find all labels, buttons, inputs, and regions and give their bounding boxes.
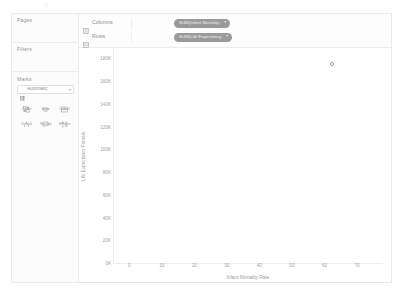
marks-button-label-label: Label <box>59 107 69 111</box>
x-axis-tick-label: 40 <box>257 264 262 269</box>
x-axis-tick-label: 70 <box>354 264 359 269</box>
worksheet-main: Columns SUM(Infant Mortality.. ▾ <box>79 14 391 282</box>
rows-icon <box>83 34 89 40</box>
pill-rows-measure[interactable]: SUM(Life Expectancy.. ▾ <box>174 33 232 42</box>
rows-shelf[interactable]: Rows SUM(Life Expectancy.. ▾ <box>83 31 387 43</box>
columns-shelf-label: Columns <box>92 20 128 25</box>
filters-card-title: Filters <box>17 47 74 52</box>
pill-columns-measure[interactable]: SUM(Infant Mortality.. ▾ <box>174 19 230 28</box>
data-point-mark[interactable] <box>330 62 334 66</box>
y-axis-title-wrap: Life Expectancy Female <box>79 48 91 264</box>
filters-card[interactable]: Filters <box>12 43 78 72</box>
top-left-artifact: ○ <box>44 1 48 8</box>
marks-button-tooltip-label: Tooltip <box>39 122 51 126</box>
columns-shelf-tray[interactable]: SUM(Infant Mortality.. ▾ <box>131 18 387 29</box>
marks-button-shape-label: Shape <box>58 122 70 126</box>
plot-canvas[interactable] <box>113 48 383 264</box>
marks-button-color[interactable]: Color <box>17 99 36 111</box>
marks-card-title: Marks <box>17 77 74 82</box>
x-axis-tick-label: 50 <box>289 264 294 269</box>
chevron-down-icon: ▾ <box>69 88 71 92</box>
marks-buttons-grid: Color Size <box>17 99 74 126</box>
columns-icon <box>83 20 89 26</box>
marks-button-size[interactable]: Size <box>36 99 55 111</box>
x-axis-tick-label: 20 <box>192 264 197 269</box>
x-axis-tick-label: 0 <box>128 264 131 269</box>
detail-icon <box>23 114 30 121</box>
x-axis-title: Infant Mortality Rate <box>113 276 383 281</box>
marks-type-icon <box>20 87 25 92</box>
columns-shelf[interactable]: Columns SUM(Infant Mortality.. ▾ <box>83 17 387 29</box>
marks-button-label[interactable]: Label <box>55 99 74 111</box>
pages-card-title: Pages <box>17 18 74 23</box>
label-icon <box>61 99 68 106</box>
y-axis-tick-label: 140K <box>100 103 111 108</box>
pages-card[interactable]: Pages <box>12 14 78 43</box>
worksheet-window: Pages Filters Marks <box>11 13 392 283</box>
y-axis-tick-label: 100K <box>100 148 111 153</box>
shelf-container: Columns SUM(Infant Mortality.. ▾ <box>79 14 391 48</box>
marks-button-tooltip[interactable]: Tooltip <box>36 114 55 126</box>
size-icon <box>42 99 49 106</box>
marks-button-detail-label: Detail <box>21 122 32 126</box>
y-axis-tick-label: 160K <box>100 80 111 85</box>
rows-shelf-label: Rows <box>92 34 128 39</box>
y-axis-tick-label: 80K <box>103 171 111 176</box>
y-axis-tick-label: 180K <box>100 57 111 62</box>
marks-button-color-label: Color <box>21 107 31 111</box>
screenshot-root: ○ · Pages Filters Marks <box>0 0 405 293</box>
y-axis-ticks: 0K20K40K60K80K100K120K140K160K180K <box>91 48 113 264</box>
marks-type-dropdown[interactable]: Automatic ▾ <box>17 85 74 94</box>
y-axis-tick-label: 40K <box>103 216 111 221</box>
x-axis-ticks: 010203040506070 <box>113 264 383 272</box>
shape-icon <box>61 114 68 121</box>
x-axis-tick-label: 30 <box>224 264 229 269</box>
x-axis-tick-label: 60 <box>322 264 327 269</box>
marks-type-value: Automatic <box>27 87 67 92</box>
pill-columns-text: SUM(Infant Mortality.. <box>179 21 221 25</box>
chart-area[interactable]: Life Expectancy Female 0K20K40K60K80K100… <box>79 48 391 282</box>
y-axis-tick-label: 60K <box>103 193 111 198</box>
worksheet-sidebar: Pages Filters Marks <box>12 14 79 282</box>
marks-button-size-label: Size <box>41 107 49 111</box>
marks-button-shape[interactable]: Shape <box>55 114 74 126</box>
x-axis-tick-label: 10 <box>159 264 164 269</box>
tooltip-icon <box>42 114 49 121</box>
y-axis-title: Life Expectancy Female <box>83 131 88 180</box>
pill-chevron-down-icon: ▾ <box>226 35 228 39</box>
color-icon <box>23 99 30 106</box>
pill-chevron-down-icon: ▾ <box>224 21 226 25</box>
marks-button-detail[interactable]: Detail <box>17 114 36 126</box>
top-right-artifact: · <box>216 2 218 9</box>
pill-rows-text: SUM(Life Expectancy.. <box>179 35 223 39</box>
rows-shelf-tray[interactable]: SUM(Life Expectancy.. ▾ <box>131 32 387 43</box>
y-axis-tick-label: 20K <box>103 239 111 244</box>
y-axis-tick-label: 0K <box>105 262 111 267</box>
marks-card: Marks Automatic ▾ <box>12 72 78 132</box>
y-axis-tick-label: 120K <box>100 125 111 130</box>
